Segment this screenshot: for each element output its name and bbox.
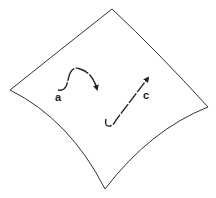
label-a: a xyxy=(55,91,62,103)
label-c: c xyxy=(143,89,149,101)
surface-outline xyxy=(10,9,208,189)
curve-a xyxy=(58,68,97,90)
curve-c xyxy=(106,78,149,126)
diagram-canvas: a c xyxy=(0,0,216,198)
